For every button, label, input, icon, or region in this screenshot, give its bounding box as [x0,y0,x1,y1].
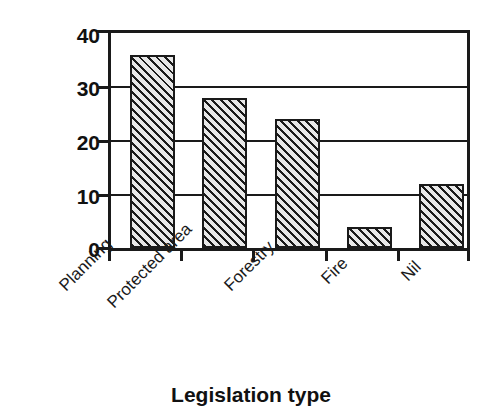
x-axis-title: Legislation type [0,384,502,405]
y-tick-label-40: 40 [56,25,100,46]
plot-border-top [108,30,470,33]
y-tick-mark-30 [97,86,109,89]
y-tick-mark-40 [97,30,109,33]
x-tick-mark-4 [397,249,400,261]
y-tick-mark-10 [97,194,109,197]
y-tick-label-30: 30 [56,78,100,99]
bar-fire [347,227,392,249]
x-category-label-fire: Fire [318,254,351,287]
plot-area [108,33,470,248]
x-tick-mark-3 [325,249,328,261]
y-tick-mark-20 [97,140,109,143]
y-tick-label-10: 10 [56,186,100,207]
x-category-label-nil: Nil [398,258,424,284]
y-tick-label-20: 20 [56,132,100,153]
bar-chart-figure: % of agencies 40 30 20 10 0 P [0,0,502,408]
bar-protected-area [202,98,247,249]
bar-forestry [275,119,320,248]
x-tick-mark-1 [180,249,183,261]
bar-nil [419,184,464,249]
bar-planning [130,55,175,249]
x-tick-mark-5 [467,249,470,261]
